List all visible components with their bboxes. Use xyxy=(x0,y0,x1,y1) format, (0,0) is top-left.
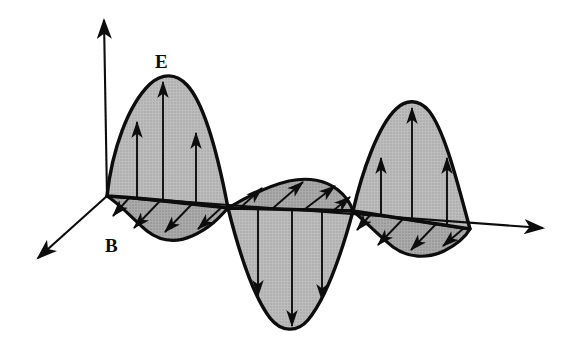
em-wave-figure: E B xyxy=(0,0,569,353)
electric-field-axis xyxy=(104,20,107,196)
e-field-trough xyxy=(228,208,353,329)
magnetic-field-axis xyxy=(38,196,107,258)
b-field-label: B xyxy=(105,236,118,255)
e-field-crest-1 xyxy=(107,76,228,208)
em-wave-svg xyxy=(0,0,569,353)
e-field-label: E xyxy=(155,52,168,71)
